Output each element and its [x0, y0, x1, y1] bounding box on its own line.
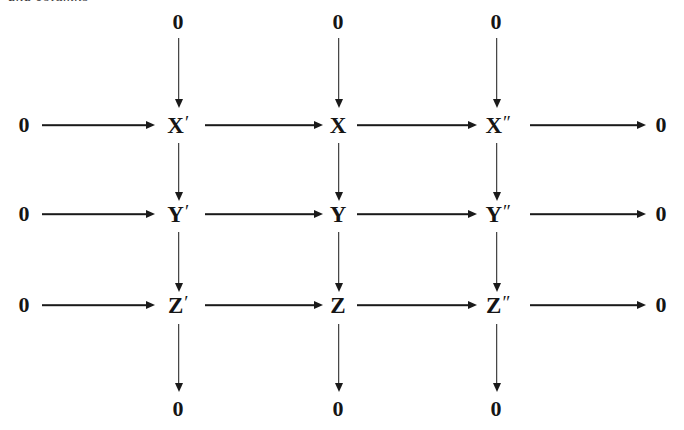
arrow-down-x-to-y — [334, 143, 343, 201]
arrow-down-y-to-z — [334, 232, 343, 292]
arrow-down-zero-to-x — [334, 38, 343, 108]
node-z-base: Z — [330, 293, 345, 318]
arrow-right-x-double-prime-to-zero — [530, 120, 646, 130]
node-x-prime: X′ — [167, 114, 188, 137]
arrow-right-zero-to-y-prime — [42, 209, 155, 219]
arrow-right-zero-to-x-prime — [42, 120, 155, 130]
node-z-prime-mark: ′ — [184, 292, 189, 313]
arrow-down-y-double-prime-to-z-double-prime — [492, 232, 501, 292]
arrow-right-y-double-prime-to-zero — [530, 209, 646, 219]
arrow-right-y-prime-to-y — [205, 209, 323, 219]
node-z: Z — [330, 294, 345, 317]
node-x-double-prime-mark: ″ — [503, 112, 511, 133]
node-x-double-prime-base: X — [485, 113, 502, 138]
arrow-down-x-prime-to-y-prime — [174, 143, 183, 201]
node-y-double-prime-mark: ″ — [503, 201, 511, 222]
node-z-double-prime-base: Z — [486, 293, 501, 318]
node-x-double-prime: X″ — [485, 114, 510, 137]
arrow-right-x-to-x-double-prime — [357, 120, 477, 130]
caption-text: and columns — [8, 0, 89, 5]
zero-bottom-col3: 0 — [491, 398, 502, 420]
zero-top-col1: 0 — [173, 11, 184, 33]
zero-right-row-z: 0 — [656, 294, 667, 316]
node-z-double-prime: Z″ — [486, 294, 510, 317]
node-y-prime-mark: ′ — [185, 201, 190, 222]
commutative-diagram: and columns 0 0 0 0 X′ X X″ 0 0 — [0, 0, 684, 430]
arrow-down-zero-to-x-prime — [174, 38, 183, 108]
zero-right-row-y: 0 — [656, 203, 667, 225]
arrow-down-z-double-prime-to-zero — [492, 324, 501, 392]
arrow-right-x-prime-to-x — [205, 120, 323, 130]
arrow-down-zero-to-x-double-prime — [492, 38, 501, 108]
node-x-prime-mark: ′ — [185, 112, 190, 133]
node-z-prime-base: Z — [168, 293, 183, 318]
node-z-prime: Z′ — [168, 294, 188, 317]
node-y-prime: Y′ — [167, 203, 188, 226]
zero-right-row-x: 0 — [656, 114, 667, 136]
node-y: Y — [330, 203, 347, 226]
caption-clip: and columns — [8, 0, 248, 9]
node-x-base: X — [330, 113, 347, 138]
zero-top-col3: 0 — [491, 11, 502, 33]
node-y-prime-base: Y — [167, 202, 184, 227]
arrow-down-z-prime-to-zero — [174, 324, 183, 392]
arrow-right-z-double-prime-to-zero — [530, 300, 646, 310]
node-y-base: Y — [330, 202, 347, 227]
arrow-right-z-to-z-double-prime — [357, 300, 477, 310]
node-x: X — [330, 114, 347, 137]
arrow-right-y-to-y-double-prime — [357, 209, 477, 219]
node-y-double-prime-base: Y — [485, 202, 502, 227]
node-z-double-prime-mark: ″ — [502, 292, 510, 313]
zero-left-row-x: 0 — [19, 114, 30, 136]
zero-top-col2: 0 — [333, 11, 344, 33]
node-y-double-prime: Y″ — [485, 203, 510, 226]
zero-bottom-col2: 0 — [333, 398, 344, 420]
arrow-right-zero-to-z-prime — [42, 300, 155, 310]
zero-bottom-col1: 0 — [173, 398, 184, 420]
arrow-right-z-prime-to-z — [205, 300, 323, 310]
node-x-prime-base: X — [167, 113, 184, 138]
arrow-down-y-prime-to-z-prime — [174, 232, 183, 292]
zero-left-row-y: 0 — [19, 203, 30, 225]
arrow-down-z-to-zero — [334, 324, 343, 392]
zero-left-row-z: 0 — [19, 294, 30, 316]
arrow-down-x-double-prime-to-y-double-prime — [492, 143, 501, 201]
